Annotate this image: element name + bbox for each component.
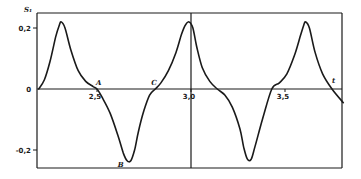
plot-frame xyxy=(37,13,342,168)
chart-canvas: 0,20-0,22,53,03,5 ABC S₁ t xyxy=(0,0,361,179)
y-axis-label: S₁ xyxy=(24,5,32,14)
x-tick-label: 3,0 xyxy=(183,93,196,101)
y-tick-label: 0,2 xyxy=(19,25,32,33)
y-tick-label: -0,2 xyxy=(16,147,31,155)
annotation-a: A xyxy=(95,78,102,87)
annotation-b: B xyxy=(117,160,124,169)
y-tick-label: 0 xyxy=(26,86,31,94)
x-tick-label: 2,5 xyxy=(89,93,102,101)
x-tick-label: 3,5 xyxy=(277,93,290,101)
point-annotations: ABC xyxy=(95,78,157,169)
annotation-c: C xyxy=(151,78,157,87)
x-axis-label: t xyxy=(332,76,336,85)
